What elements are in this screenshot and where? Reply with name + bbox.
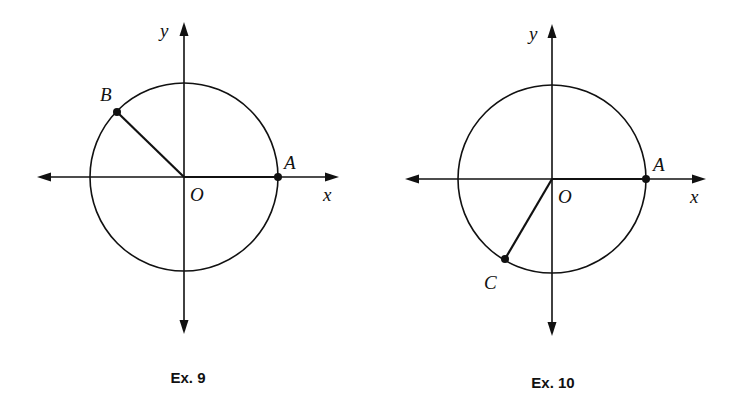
y-axis-up-arrow-icon xyxy=(548,24,557,38)
point-a-label: A xyxy=(282,152,296,173)
point-b-label: B xyxy=(100,84,112,105)
y-axis-label: y xyxy=(158,20,169,41)
y-axis-label: y xyxy=(527,23,538,44)
radius-oc xyxy=(505,179,552,259)
x-axis-left-arrow-icon xyxy=(37,173,51,182)
x-axis-label: x xyxy=(689,186,699,207)
figure-caption: Ex. 10 xyxy=(531,374,574,391)
origin-label: O xyxy=(190,184,204,205)
point-c-label: C xyxy=(484,272,497,293)
point-a-label: A xyxy=(651,154,665,175)
y-axis-down-arrow-icon xyxy=(548,322,557,336)
x-axis-left-arrow-icon xyxy=(405,175,419,184)
figure-caption: Ex. 9 xyxy=(170,369,205,386)
figure-ex10: y x O A C Ex. 10 xyxy=(405,23,706,391)
point-a-marker xyxy=(642,175,650,183)
origin-label: O xyxy=(558,186,572,207)
x-axis-right-arrow-icon xyxy=(325,173,339,182)
point-a-marker xyxy=(274,173,282,181)
x-axis-right-arrow-icon xyxy=(692,175,706,184)
figure-ex9: y x O A B Ex. 9 xyxy=(37,20,339,386)
y-axis-up-arrow-icon xyxy=(180,22,189,36)
y-axis-down-arrow-icon xyxy=(180,320,189,334)
x-axis-label: x xyxy=(322,184,332,205)
figure-canvas: y x O A B Ex. 9 y x O A C Ex. 10 xyxy=(0,0,730,407)
radius-ob xyxy=(117,112,184,177)
point-b-marker xyxy=(113,108,121,116)
point-c-marker xyxy=(501,255,509,263)
